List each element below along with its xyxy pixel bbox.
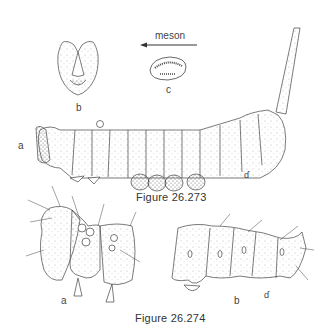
panel-label-273a: a	[18, 140, 24, 151]
arrow-label-meson: meson	[155, 30, 185, 41]
posterior-abdomen-drawing	[172, 214, 314, 291]
head-thorax-drawing	[26, 186, 140, 302]
panel-label-274a: a	[61, 295, 67, 306]
figure-illustration	[0, 0, 330, 330]
panel-label-273c: c	[166, 84, 171, 95]
panel-label-274b: b	[234, 295, 240, 306]
signature-mark: ɗ	[244, 170, 249, 180]
panel-label-273b: b	[76, 102, 82, 113]
head-capsule-drawing	[58, 41, 98, 95]
crochets-drawing	[150, 57, 186, 80]
figure-caption-273: Figure 26.273	[136, 191, 206, 203]
figure-caption-274: Figure 26.274	[135, 312, 205, 324]
signature-mark-2: ɗ	[264, 290, 269, 300]
meson-arrow	[140, 43, 197, 48]
